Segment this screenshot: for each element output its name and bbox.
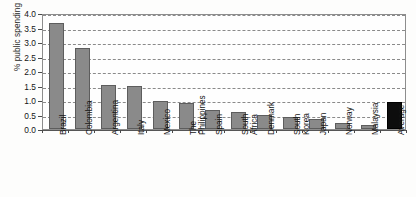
y-tick-label: 3.5 bbox=[24, 25, 36, 33]
x-tick-label: Brazil bbox=[59, 75, 68, 135]
y-tick-mark bbox=[38, 29, 42, 30]
x-tick-label: Japan bbox=[319, 75, 328, 135]
bar-chart: % public spending 0.00.51.01.52.02.53.03… bbox=[0, 0, 416, 197]
y-tick-label: 1.0 bbox=[24, 97, 36, 105]
y-tick-mark bbox=[38, 87, 42, 88]
y-tick-label: 2.5 bbox=[24, 54, 36, 62]
y-tick-label: 4.0 bbox=[24, 10, 36, 18]
x-tick-label: Italy bbox=[137, 75, 146, 135]
y-tick-mark bbox=[38, 43, 42, 44]
y-tick-mark bbox=[38, 72, 42, 73]
x-tick-label: Norway bbox=[345, 75, 354, 135]
x-tick-mark bbox=[42, 130, 43, 133]
y-tick-label: 0.5 bbox=[24, 112, 36, 120]
x-tick-label: Colombia bbox=[85, 75, 94, 135]
gridline bbox=[43, 44, 405, 45]
gridline bbox=[43, 30, 405, 31]
y-tick-mark bbox=[38, 116, 42, 117]
x-tick-label: Malaysia bbox=[371, 75, 380, 135]
x-tick-label: Spain bbox=[215, 75, 224, 135]
gridline bbox=[43, 15, 405, 16]
y-tick-label: 1.5 bbox=[24, 83, 36, 91]
x-tick-label: South Africa bbox=[241, 75, 260, 135]
x-tick-label: South Korea bbox=[293, 75, 312, 135]
y-tick-mark bbox=[38, 101, 42, 102]
x-tick-label: Mexico bbox=[163, 75, 172, 135]
y-tick-mark bbox=[38, 14, 42, 15]
x-tick-label: Argentina bbox=[111, 75, 120, 135]
gridline bbox=[43, 73, 405, 74]
gridline bbox=[43, 59, 405, 60]
x-tick-label: Denmark bbox=[267, 75, 276, 135]
x-tick-label: The Philippines bbox=[189, 75, 208, 135]
x-tick-label: Average bbox=[397, 75, 406, 135]
y-tick-label: 3.0 bbox=[24, 39, 36, 47]
y-tick-label: 0.0 bbox=[24, 126, 36, 134]
y-tick-label: 2.0 bbox=[24, 68, 36, 76]
y-tick-mark bbox=[38, 58, 42, 59]
